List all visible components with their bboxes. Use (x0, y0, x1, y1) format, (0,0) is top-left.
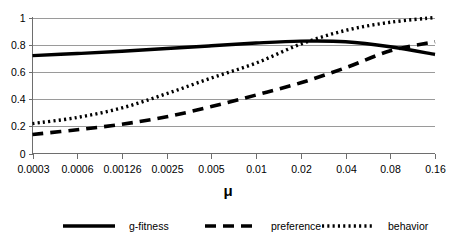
y-axis-tick-label: 0 (20, 148, 26, 160)
x-axis-tick-label: 0.04 (336, 163, 357, 175)
y-axis-tick-label: 0.2 (11, 120, 26, 132)
y-axis-tick-label: 0.4 (11, 93, 26, 105)
legend-label-g-fitness: g-fitness (129, 220, 169, 232)
x-axis-tick-label: 0.0003 (17, 163, 49, 175)
y-axis-tick-label: 1 (20, 12, 26, 24)
x-axis-title: μ (223, 182, 232, 199)
y-axis-tick-label: 0.8 (11, 39, 26, 51)
x-axis-tick-label: 0.00126 (104, 163, 142, 175)
legend-label-preference: preference (271, 220, 321, 232)
line-chart: 00.20.40.60.81 0.00030.00060.001260.0025… (0, 0, 454, 240)
x-axis-tick-label: 0.16 (425, 163, 446, 175)
chart-background (0, 0, 454, 240)
x-axis-tick-label: 0.0025 (151, 163, 183, 175)
x-axis-tick-label: 0.0006 (61, 163, 93, 175)
legend-label-behavior: behavior (388, 220, 429, 232)
y-axis-tick-label: 0.6 (11, 66, 26, 78)
x-axis-tick-label: 0.08 (380, 163, 401, 175)
chart-container: 00.20.40.60.81 0.00030.00060.001260.0025… (0, 0, 454, 240)
x-axis-tick-label: 0.005 (198, 163, 224, 175)
x-axis-tick-label: 0.02 (291, 163, 312, 175)
x-axis-tick-label: 0.01 (246, 163, 267, 175)
